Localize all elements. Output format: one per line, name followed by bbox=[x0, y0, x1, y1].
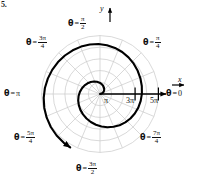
x-tick-label-5pi: 5π bbox=[150, 96, 158, 105]
angle-label-theta-0: θ=0 bbox=[166, 89, 182, 98]
fraction-5pi-4: 5π4 bbox=[26, 130, 35, 145]
angle-label-theta-pi-2: θ=π2 bbox=[68, 16, 86, 31]
theta-symbol: θ bbox=[76, 164, 82, 173]
pi-symbol: π bbox=[16, 89, 20, 98]
polar-spiral-figure: 5. bbox=[0, 0, 200, 177]
theta-symbol: θ bbox=[14, 133, 20, 142]
zero-value: 0 bbox=[178, 89, 182, 98]
angle-label-theta-3pi-4: θ=3π4 bbox=[26, 35, 47, 50]
fraction-pi-2: π2 bbox=[80, 16, 86, 31]
theta-symbol: θ bbox=[68, 19, 74, 28]
theta-symbol: θ bbox=[143, 38, 149, 47]
fraction-3pi-2: 3π2 bbox=[88, 161, 97, 176]
fraction-pi-4: π4 bbox=[155, 35, 161, 50]
x-tick-label-pi: π bbox=[104, 96, 108, 105]
fraction-7pi-4: 7π4 bbox=[152, 130, 161, 145]
x-tick-label-3pi: 3π bbox=[126, 96, 134, 105]
theta-symbol: θ bbox=[166, 89, 172, 98]
angle-label-theta-3pi-2: θ=3π2 bbox=[76, 161, 97, 176]
angle-label-theta-pi-4: θ=π4 bbox=[143, 35, 161, 50]
angle-label-theta-pi: θ=π bbox=[4, 89, 20, 98]
x-axis-label: x bbox=[178, 75, 182, 84]
theta-symbol: θ bbox=[140, 133, 146, 142]
angle-label-theta-7pi-4: θ=7π4 bbox=[140, 130, 161, 145]
y-axis-label: y bbox=[100, 4, 104, 13]
angle-label-theta-5pi-4: θ=5π4 bbox=[14, 130, 35, 145]
fraction-3pi-4: 3π4 bbox=[38, 35, 47, 50]
theta-symbol: θ bbox=[4, 89, 10, 98]
theta-symbol: θ bbox=[26, 38, 32, 47]
